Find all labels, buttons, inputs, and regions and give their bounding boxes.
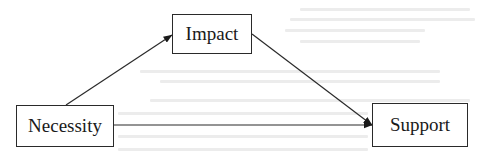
node-impact-label: Impact: [186, 23, 239, 45]
node-support: Support: [372, 103, 468, 147]
node-support-label: Support: [390, 114, 450, 136]
node-impact: Impact: [172, 14, 252, 54]
edge-impact-to-support: [252, 34, 372, 125]
edge-necessity-to-impact: [66, 35, 172, 105]
node-necessity-label: Necessity: [28, 115, 102, 137]
node-necessity: Necessity: [16, 105, 114, 147]
